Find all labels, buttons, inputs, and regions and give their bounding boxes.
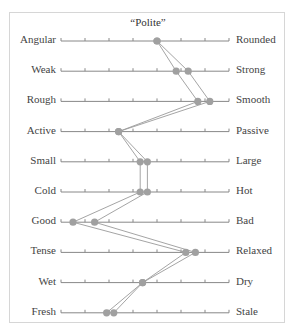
profile-marker bbox=[91, 219, 98, 226]
profile-marker bbox=[137, 158, 144, 165]
profile-marker bbox=[194, 98, 201, 105]
profile-marker bbox=[110, 309, 117, 316]
scale-row bbox=[61, 38, 229, 41]
scale-row bbox=[61, 98, 229, 101]
profile-marker bbox=[185, 68, 192, 75]
profile-marker bbox=[144, 188, 151, 195]
scale-row bbox=[61, 249, 229, 252]
scale-row bbox=[61, 68, 229, 71]
profile-line bbox=[73, 41, 198, 313]
scale-row bbox=[61, 219, 229, 222]
profile-marker bbox=[137, 188, 144, 195]
profile-marker bbox=[192, 249, 199, 256]
profile-marker bbox=[103, 309, 110, 316]
profile-marker bbox=[69, 219, 76, 226]
profile-marker bbox=[139, 279, 146, 286]
profile-plot bbox=[0, 0, 296, 331]
profile-marker bbox=[115, 128, 122, 135]
profile-marker bbox=[173, 68, 180, 75]
scale-row bbox=[61, 310, 229, 313]
profile-line bbox=[95, 41, 210, 313]
profile-marker bbox=[153, 37, 160, 44]
scale-row bbox=[61, 129, 229, 132]
profile-marker bbox=[144, 158, 151, 165]
profile-marker bbox=[206, 98, 213, 105]
profile-marker bbox=[182, 249, 189, 256]
